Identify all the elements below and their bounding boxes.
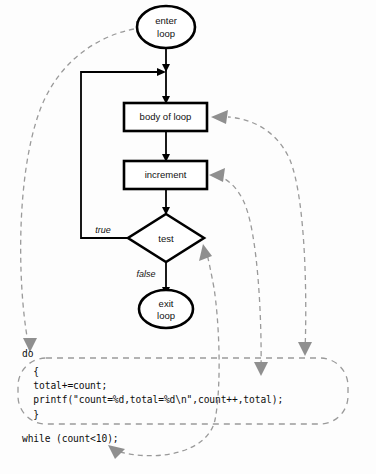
edge-label-false: false [136, 269, 155, 279]
code-line-total: total+=count; [22, 380, 107, 391]
node-exit-loop-label-line1: exit [159, 298, 174, 309]
node-body-of-loop-label: body of loop [140, 111, 192, 122]
code-line-close-brace: } [22, 409, 39, 420]
mapping-arrowhead-test [199, 244, 212, 261]
code-line-printf: printf("count=%d,total=%d\n",count++,tot… [22, 394, 283, 405]
node-test-label: test [158, 233, 174, 244]
mapping-line-increment [214, 175, 261, 374]
node-enter-loop-label-line1: enter [155, 15, 177, 26]
mapping-line-body-of-loop [228, 117, 306, 352]
mapping-arrowhead-printf-count [254, 362, 268, 376]
node-enter-loop-label-line2: loop [157, 28, 175, 39]
code-body-highlight-box [18, 358, 348, 424]
diagram-page: enter loop true body of loop increment t… [0, 0, 376, 474]
code-line-do: do [22, 348, 34, 359]
flowchart-canvas: enter loop true body of loop increment t… [0, 0, 376, 474]
mapping-arrowhead-code-block [298, 342, 312, 356]
edge-true-branch [81, 72, 160, 238]
code-line-while: while (count<10); [22, 433, 119, 444]
node-exit-loop-label-line2: loop [157, 310, 175, 321]
code-line-open-brace: { [22, 366, 39, 377]
edge-label-true: true [95, 225, 111, 235]
node-increment-label: increment [145, 169, 187, 180]
mapping-arrowhead-increment [209, 168, 225, 182]
mapping-line-test [120, 254, 219, 456]
mapping-arrowhead-body-of-loop [211, 110, 228, 124]
